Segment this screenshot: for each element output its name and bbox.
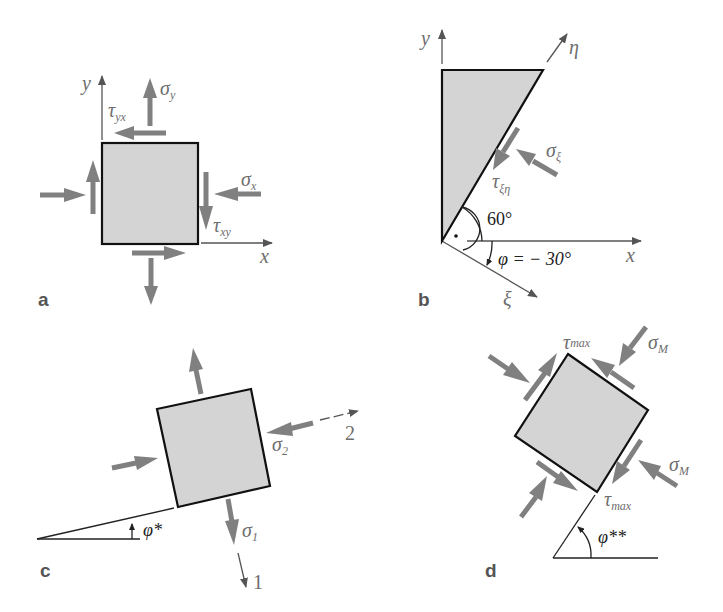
x-axis-label-b: x <box>625 244 635 266</box>
tau-yx-arrow <box>114 126 166 140</box>
sigma-M-bottom-label: σM <box>669 453 690 478</box>
tau-max-top-label: τmax <box>563 331 591 353</box>
panel-a: y x σy τyx σx τxy a <box>38 72 272 310</box>
sigma-xi-label: σξ <box>546 139 562 164</box>
sigma-M-top-arrow <box>619 327 646 366</box>
tau-xy-arrow <box>199 172 213 230</box>
y-axis-label-b: y <box>419 27 430 50</box>
phi-star-label: φ* <box>143 520 162 540</box>
axis-2-label: 2 <box>345 422 355 444</box>
sigma-2-label: σ2 <box>272 433 288 458</box>
phi-arc <box>487 241 492 265</box>
phi-star-star-label: φ** <box>598 527 626 547</box>
sigma-x-label: σx <box>241 168 257 193</box>
panel-label-a: a <box>38 289 49 310</box>
stress-transformation-figure: y x σy τyx σx τxy a y <box>0 0 723 612</box>
axis-1-label: 1 <box>253 571 263 593</box>
panel-label-b: b <box>418 289 430 310</box>
sigma-M-left-arrow <box>489 356 530 383</box>
principal-element-c <box>157 389 270 507</box>
angle-60-label: 60° <box>487 209 512 229</box>
sigma-M-lowerleft-arrow <box>521 476 547 517</box>
tau-yx-label: τyx <box>108 99 126 124</box>
panel-label-c: c <box>40 560 51 581</box>
stress-element-a <box>102 143 198 244</box>
sigma-M-top-label: σM <box>648 331 669 356</box>
y-axis-label: y <box>80 72 91 95</box>
sigma-y-bottom-arrow <box>144 258 158 305</box>
tau-xi-eta-label: τξη <box>492 170 510 196</box>
sigma-y-arrow <box>143 78 157 126</box>
eta-axis <box>547 34 567 62</box>
xi-axis-label: ξ <box>503 288 512 310</box>
sigma-2-left-arrow <box>112 456 158 470</box>
phi-star-star-arc <box>578 527 591 558</box>
element-edge-extension-d <box>553 495 595 558</box>
panel-d: τmax σM σM τmax φ** d <box>485 327 690 581</box>
eta-axis-label: η <box>569 36 579 59</box>
sigma-1-top-arrow <box>189 348 203 394</box>
axis-2 <box>320 411 358 420</box>
tau-xy-label: τxy <box>213 214 231 239</box>
sigma-1-arrow <box>225 499 239 545</box>
right-angle-dot <box>454 234 458 238</box>
axis-1 <box>238 553 246 587</box>
tau-bottom-arrow <box>132 246 186 260</box>
sigma-x-left-arrow <box>40 188 86 202</box>
tau-max-bottom-label: τmax <box>604 488 632 513</box>
tau-left-arrow <box>86 160 100 214</box>
panel-c: 2 1 σ2 σ1 φ* c <box>37 348 358 593</box>
sigma-y-label: σy <box>160 77 176 102</box>
sigma-1-label: σ1 <box>242 519 258 544</box>
panel-b: y x η ξ σξ τξη 60° φ = − 30° b <box>418 27 641 310</box>
phi-label: φ = − 30° <box>498 249 571 269</box>
x-axis-label: x <box>259 245 269 267</box>
panel-label-d: d <box>485 560 497 581</box>
